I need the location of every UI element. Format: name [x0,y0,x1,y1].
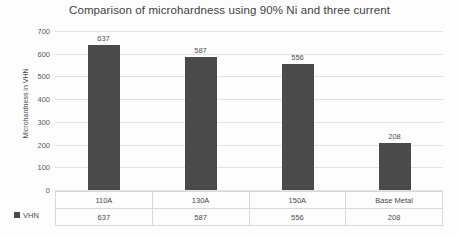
table-cell-category: 110A [56,192,153,209]
data-table: 110A130A150ABase Metal 637587556208 [55,191,443,226]
table-cell-category: 130A [152,192,249,209]
y-tick-label-100: 100 [24,163,50,172]
table-cell-value: 208 [346,209,443,226]
y-axis-tick-labels: 7006005004003002001000 [22,31,50,190]
y-tick-label-400: 400 [24,95,50,104]
bar-150a[interactable] [282,64,314,190]
table-cell-category: 150A [249,192,346,209]
bar-value-label-110a: 637 [82,34,126,43]
y-tick-label-0: 0 [24,186,50,195]
y-tick-label-500: 500 [24,72,50,81]
y-tick-label-600: 600 [24,49,50,58]
bar-value-label-130a: 587 [179,46,223,55]
chart-title: Comparison of microhardness using 90% Ni… [0,4,459,16]
series-color-swatch-icon [14,212,20,218]
bar-value-label-base-metal: 208 [373,132,417,141]
table-cell-value: 587 [152,209,249,226]
bar-base-metal[interactable] [379,143,411,190]
bar-130a[interactable] [185,57,217,190]
plot-area: 637587556208 [55,31,443,190]
legend-label: VHN [23,211,39,220]
y-tick-label-200: 200 [24,140,50,149]
table-cell-value: 556 [249,209,346,226]
bar-110a[interactable] [88,45,120,190]
y-tick-label-300: 300 [24,117,50,126]
y-tick-label-700: 700 [24,27,50,36]
legend-item-vhn: VHN [14,207,54,223]
bar-value-label-150a: 556 [276,53,320,62]
table-cell-category: Base Metal [346,192,443,209]
table-cell-value: 637 [56,209,153,226]
table-row-values: 637587556208 [56,209,443,226]
table-row-categories: 110A130A150ABase Metal [56,192,443,209]
bar-chart: Comparison of microhardness using 90% Ni… [0,0,459,237]
gridline-700 [55,31,443,32]
